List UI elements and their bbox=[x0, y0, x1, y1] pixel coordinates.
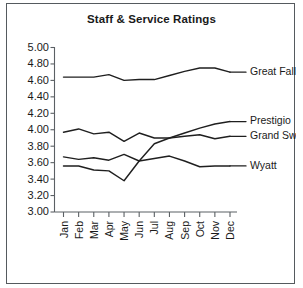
x-axis-tick-label: Jun bbox=[133, 221, 145, 238]
y-axis-tick-label: 3.00 bbox=[28, 205, 49, 217]
series-label-great-falls: Great Falls bbox=[250, 65, 296, 77]
y-axis-tick-label: 3.80 bbox=[28, 140, 49, 152]
series-label-prestigio: Prestigio bbox=[250, 114, 291, 126]
series-label-wyatt: Wyatt bbox=[250, 159, 277, 171]
y-axis-tick-marks bbox=[51, 48, 55, 213]
line-chart: 5.004.804.604.404.204.003.803.603.403.20… bbox=[7, 4, 296, 285]
y-axis-tick-label: 4.80 bbox=[28, 57, 49, 69]
series-labels-group: Great FallsPrestigioGrand SwanWyatt bbox=[250, 65, 296, 171]
x-axis-tick-label: Jan bbox=[58, 221, 70, 238]
x-axis-tick-label: Sep bbox=[179, 221, 191, 240]
series-label-grand-swan: Grand Swan bbox=[250, 129, 296, 141]
y-axis-tick-label: 4.60 bbox=[28, 74, 49, 86]
x-axis-tick-label: Oct bbox=[194, 221, 206, 237]
y-axis-tick-label: 4.00 bbox=[28, 123, 49, 135]
chart-frame: Staff & Service Ratings 5.004.804.604.40… bbox=[6, 3, 295, 284]
y-axis-tick-label: 3.40 bbox=[28, 173, 49, 185]
x-axis-tick-label: Feb bbox=[73, 221, 85, 239]
series-line-wyatt bbox=[64, 154, 231, 166]
y-axis-tick-label: 4.20 bbox=[28, 107, 49, 119]
x-axis-tick-marks bbox=[64, 212, 231, 217]
series-line-great-falls bbox=[64, 68, 231, 80]
series-line-grand-swan bbox=[64, 129, 231, 141]
y-axis-tick-label: 3.60 bbox=[28, 156, 49, 168]
y-axis-tick-label: 3.20 bbox=[28, 189, 49, 201]
y-axis-tick-labels: 5.004.804.604.404.204.003.803.603.403.20… bbox=[28, 41, 49, 218]
x-axis-tick-labels: JanFebMarAprMayJunJulAugSepOctNovDec bbox=[58, 220, 237, 241]
series-line-prestigio bbox=[64, 122, 231, 181]
x-axis-tick-label: Nov bbox=[209, 220, 221, 239]
x-axis-tick-label: Jul bbox=[148, 221, 160, 234]
series-lines-group bbox=[64, 68, 231, 181]
x-axis-tick-label: Aug bbox=[163, 221, 175, 240]
y-axis-tick-label: 5.00 bbox=[28, 41, 49, 53]
x-axis-tick-label: Mar bbox=[88, 221, 100, 240]
series-callout-group bbox=[230, 72, 246, 166]
x-axis-tick-label: Apr bbox=[103, 221, 115, 238]
x-axis-tick-label: Dec bbox=[224, 221, 236, 240]
y-axis-tick-label: 4.40 bbox=[28, 90, 49, 102]
x-axis-tick-label: May bbox=[118, 220, 130, 241]
